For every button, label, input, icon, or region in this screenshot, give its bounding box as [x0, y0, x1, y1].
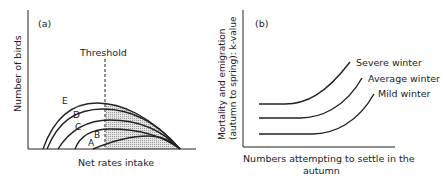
panel-a-label: (a)	[38, 18, 51, 29]
x-axis-label-b-line2: autumn	[303, 165, 340, 176]
curve-label-e: E	[62, 96, 68, 106]
curve-severe-winter	[259, 62, 350, 104]
curve-label-a: A	[88, 138, 95, 148]
panel-b-label: (b)	[255, 18, 268, 29]
x-axis-label-a: Net rates intake	[78, 157, 154, 168]
x-axis-label-b-line1: Numbers attempting to settle in the	[243, 153, 415, 164]
panel-b: (b) Severe winter Average winter Mild wi…	[217, 10, 440, 176]
curve-label-average: Average winter	[368, 73, 440, 84]
y-axis-label-a: Number of birds	[12, 35, 23, 112]
curve-label-severe: Severe winter	[356, 57, 422, 68]
figure: (a) Threshold Net rates intake Number of…	[0, 0, 445, 179]
threshold-label: Threshold	[79, 47, 127, 58]
curve-mild-winter	[259, 94, 374, 134]
curve-label-d: D	[73, 110, 80, 120]
panel-a: (a) Threshold Net rates intake Number of…	[12, 10, 196, 168]
curve-label-mild: Mild winter	[378, 88, 431, 99]
y-axis-label-b-line1: Mortality and emigration	[217, 29, 227, 141]
curve-label-c: C	[75, 122, 81, 132]
curve-label-b: B	[94, 130, 100, 140]
y-axis-label-b-line2: (autumn to spring): k-value	[228, 16, 238, 140]
